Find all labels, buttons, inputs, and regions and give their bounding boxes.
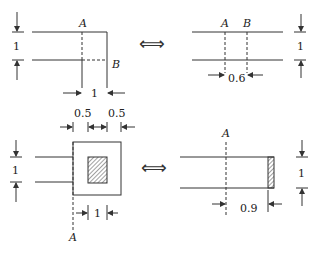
height-dim-label: 1 [298,167,305,180]
point-a-label: A [68,231,77,244]
point-b-label: B [111,58,120,71]
point-a-label: A [220,17,229,30]
hatched-region [88,157,107,183]
point-a-label: A [221,127,230,140]
equivalence-arrow-top: ⟺ [139,33,165,54]
width-dim-label: 1 [94,207,101,220]
panel-bottom-left: 0.5 0.5 1 A 1 [10,107,135,244]
panel-top-right: A B 0.6 1 [192,14,306,85]
panel-bottom-right: A 0.9 1 [180,127,308,215]
width-dim-label: 1 [91,87,98,100]
right-margin-dim-label: 0.5 [108,107,126,120]
conformal-map-diagram: 1 A B 1 ⟺ A B 0.6 1 0.5 0.5 [0,0,318,253]
point-a-label: A [78,17,87,30]
width-dim-label: 0.6 [228,72,246,85]
width-dim-label: 0.9 [240,202,258,215]
point-b-label: B [242,17,251,30]
height-dim-label: 1 [12,164,19,177]
equivalence-arrow-bottom: ⟺ [141,157,167,178]
panel-top-left: 1 A B 1 [12,12,125,100]
height-dim-label: 1 [13,40,20,53]
hatched-region [268,157,274,188]
left-margin-dim-label: 0.5 [74,107,92,120]
height-dim-label: 1 [297,40,304,53]
